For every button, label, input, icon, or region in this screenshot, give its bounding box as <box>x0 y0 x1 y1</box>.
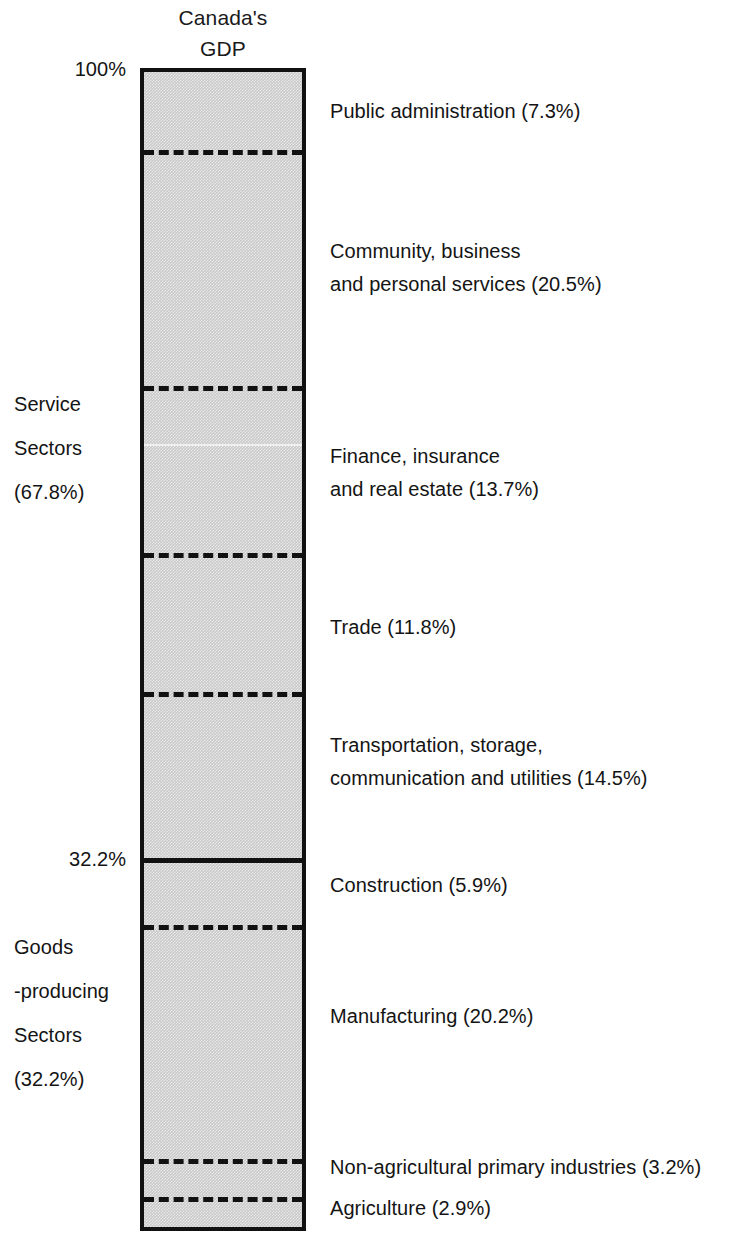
axis-tick-32-2-percent: 32.2% <box>0 846 126 872</box>
segment-label-agriculture: Agriculture (2.9%) <box>330 1192 491 1225</box>
segment-label-trade: Trade (11.8%) <box>330 611 456 644</box>
group-label-goods-producing-sectors: Goods -producing Sectors (32.2%) <box>14 925 136 1101</box>
segment-label-non-agricultural-primary-industries: Non-agricultural primary industries (3.2… <box>330 1151 701 1184</box>
scan-artifact-line <box>144 444 302 446</box>
segment-label-manufacturing: Manufacturing (20.2%) <box>330 1000 533 1033</box>
segment-label-public-administration: Public administration (7.3%) <box>330 95 580 128</box>
bar-segment-trade[interactable] <box>144 553 302 692</box>
segment-label-finance-insurance-real-estate: Finance, insurance and real estate (13.7… <box>330 440 539 506</box>
segment-label-construction: Construction (5.9%) <box>330 869 508 902</box>
gdp-stacked-bar-figure: Canada's GDP 100% 32.2% Service Sectors … <box>0 0 738 1246</box>
bar-segment-transportation-storage-communication-utilities[interactable] <box>144 692 302 858</box>
bar-segment-finance-insurance-real-estate[interactable] <box>144 386 302 553</box>
axis-tick-100-percent: 100% <box>0 56 126 82</box>
segment-label-community-business-personal-services: Community, business and personal service… <box>330 235 602 301</box>
segment-label-transportation-storage-communication-utilities: Transportation, storage, communication a… <box>330 729 647 795</box>
stacked-bar-column <box>140 68 306 1231</box>
bar-segment-construction[interactable] <box>144 858 302 925</box>
group-label-service-sectors: Service Sectors (67.8%) <box>14 382 136 514</box>
bar-segment-public-administration[interactable] <box>144 72 302 150</box>
bar-segment-community-business-personal-services[interactable] <box>144 150 302 386</box>
bar-segment-manufacturing[interactable] <box>144 925 302 1159</box>
bar-segment-non-agricultural-primary-industries[interactable] <box>144 1159 302 1197</box>
bar-segment-agriculture[interactable] <box>144 1197 302 1227</box>
chart-title: Canada's GDP <box>140 2 306 64</box>
